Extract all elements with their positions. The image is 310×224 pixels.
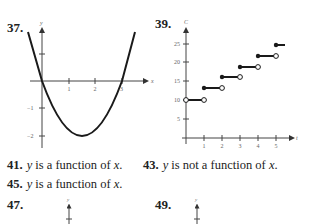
svg-text:y: y [194,197,198,202]
partial-graphs: y y [0,0,310,224]
svg-text:y: y [66,197,70,202]
